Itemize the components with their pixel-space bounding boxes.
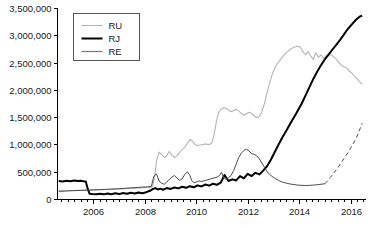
x-axis-tick-labels: 200620082010201220142016 <box>83 206 362 217</box>
y-axis-ticks <box>54 9 58 200</box>
legend-label-ru: RU <box>109 20 123 31</box>
series-line-ru <box>59 46 362 191</box>
y-tick-label: 500,000 <box>17 167 51 178</box>
x-tick-label: 2016 <box>341 206 362 217</box>
x-tick-label: 2008 <box>135 206 156 217</box>
y-tick-label: 1,500,000 <box>9 112 51 123</box>
y-tick-label: 2,500,000 <box>9 58 51 69</box>
x-tick-label: 2010 <box>186 206 207 217</box>
series-line-re <box>59 149 325 191</box>
series-line-re-projected <box>325 123 362 184</box>
y-tick-label: 1,000,000 <box>9 139 51 150</box>
y-tick-label: 0 <box>46 194 51 205</box>
line-chart: 0500,0001,000,0001,500,0002,000,0002,500… <box>0 0 373 228</box>
legend-label-re: RE <box>109 46 122 57</box>
y-tick-label: 2,000,000 <box>9 85 51 96</box>
x-tick-label: 2006 <box>83 206 104 217</box>
y-axis-tick-labels: 0500,0001,000,0001,500,0002,000,0002,500… <box>9 3 51 205</box>
legend-box <box>74 14 140 61</box>
x-tick-label: 2012 <box>238 206 259 217</box>
y-tick-label: 3,000,000 <box>9 30 51 41</box>
plot-area: 0500,0001,000,0001,500,0002,000,0002,500… <box>9 3 366 217</box>
x-tick-label: 2014 <box>289 206 310 217</box>
chart-canvas: 0500,0001,000,0001,500,0002,000,0002,500… <box>0 0 373 228</box>
legend-label-rj: RJ <box>109 33 121 44</box>
chart-legend: RURJRE <box>74 14 140 61</box>
y-tick-label: 3,500,000 <box>9 3 51 14</box>
